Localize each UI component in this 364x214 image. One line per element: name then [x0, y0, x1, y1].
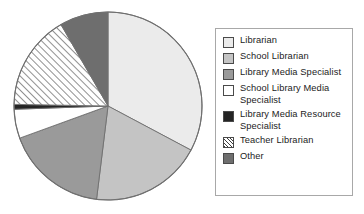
pie-slices-group	[14, 12, 202, 200]
pie-svg	[0, 0, 214, 214]
legend-label-other: Other	[240, 151, 264, 163]
legend-label-library-media-specialist: Library Media Specialist	[240, 67, 341, 79]
swatch-other	[223, 153, 234, 164]
swatch-library-media-resource-specialist	[223, 111, 234, 122]
legend-item-other[interactable]: Other	[223, 151, 347, 164]
legend-item-school-librarian[interactable]: School Librarian	[223, 51, 347, 64]
swatch-library-media-specialist	[223, 69, 234, 80]
legend-label-school-library-media-specialist: School Library Media Specialist	[240, 83, 347, 106]
legend-item-librarian[interactable]: Librarian	[223, 35, 347, 48]
legend-item-library-media-resource-specialist[interactable]: Library Media Resource Specialist	[223, 109, 347, 132]
legend-label-teacher-librarian: Teacher Librarian	[240, 135, 314, 147]
legend-label-library-media-resource-specialist: Library Media Resource Specialist	[240, 109, 347, 132]
swatch-librarian	[223, 37, 234, 48]
legend-item-teacher-librarian[interactable]: Teacher Librarian	[223, 135, 347, 148]
pie-chart-figure: Librarian School Librarian Library Media…	[0, 0, 364, 214]
chart-legend: Librarian School Librarian Library Media…	[215, 28, 353, 196]
legend-label-librarian: Librarian	[240, 35, 277, 47]
swatch-school-library-media-specialist	[223, 85, 234, 96]
pie-plot-area	[0, 0, 214, 214]
swatch-teacher-librarian	[223, 137, 234, 148]
legend-label-school-librarian: School Librarian	[240, 51, 309, 63]
legend-item-library-media-specialist[interactable]: Library Media Specialist	[223, 67, 347, 80]
legend-item-school-library-media-specialist[interactable]: School Library Media Specialist	[223, 83, 347, 106]
swatch-school-librarian	[223, 53, 234, 64]
